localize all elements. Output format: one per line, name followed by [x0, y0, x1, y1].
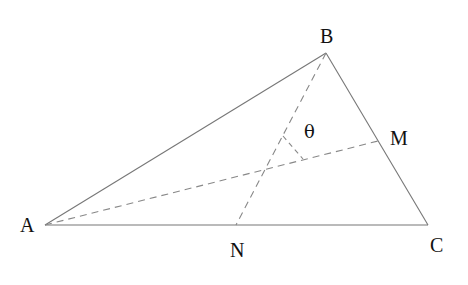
label-a: A: [20, 214, 35, 236]
label-c: C: [430, 234, 443, 256]
median-am: [45, 141, 378, 225]
side-ab: [45, 53, 326, 225]
label-n: N: [230, 239, 244, 261]
label-b: B: [320, 25, 333, 47]
angle-mark: [283, 136, 303, 159]
angle-theta-label: θ: [304, 121, 315, 142]
triangle-diagram: B A C M N θ: [0, 0, 468, 285]
label-m: M: [390, 127, 408, 149]
side-bc: [326, 53, 428, 225]
